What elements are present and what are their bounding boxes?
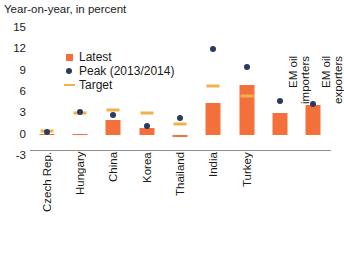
x-tick-label: Thailand (174, 152, 186, 248)
x-tick-label: India (207, 152, 219, 248)
plot-area (30, 28, 330, 156)
x-tick-label: Hungary (74, 152, 86, 248)
peak-marker (110, 112, 116, 118)
dash-marker-icon (62, 84, 76, 87)
y-tick-label: 0 (20, 129, 26, 141)
legend-item[interactable]: Latest (62, 50, 174, 64)
markers-layer (30, 28, 330, 156)
target-marker (240, 94, 253, 97)
y-tick-label: 6 (20, 86, 26, 98)
legend-label: Target (79, 79, 112, 92)
x-tick-label: China (107, 152, 119, 248)
y-tick-label: 15 (13, 22, 26, 34)
target-marker (207, 85, 220, 88)
y-tick-label: 9 (20, 65, 26, 77)
x-tick-label: Korea (141, 152, 153, 248)
peak-marker (244, 64, 250, 70)
x-tick-label: Turkey (241, 152, 253, 248)
peak-marker (177, 115, 183, 121)
peak-marker (277, 98, 283, 104)
legend-label: Latest (79, 51, 112, 64)
x-tick-label: EM oilexporters (320, 56, 344, 152)
chart-title: Year-on-year, in percent (4, 2, 126, 16)
chart-legend: LatestPeak (2013/2014)Target (62, 50, 174, 92)
target-marker (174, 123, 187, 126)
target-marker (140, 111, 153, 114)
peak-marker (210, 46, 216, 52)
circle-marker-icon (62, 68, 76, 74)
y-axis: 15129630-3 (0, 28, 28, 156)
x-axis: Czech Rep.HungaryChinaKoreaThailandIndia… (30, 152, 330, 252)
square-marker-icon (62, 54, 76, 61)
legend-item[interactable]: Target (62, 78, 174, 92)
y-tick-label: 3 (20, 108, 26, 120)
peak-marker (77, 109, 83, 115)
y-tick-label: -3 (16, 150, 26, 162)
x-tick-label: Czech Rep. (41, 152, 53, 248)
x-tick-label: EM oilimporters (287, 56, 311, 152)
peak-marker (44, 129, 50, 135)
peak-marker (144, 123, 150, 129)
legend-label: Peak (2013/2014) (79, 65, 174, 78)
peak-marker (310, 101, 316, 107)
legend-item[interactable]: Peak (2013/2014) (62, 64, 174, 78)
y-tick-label: 12 (13, 44, 26, 56)
